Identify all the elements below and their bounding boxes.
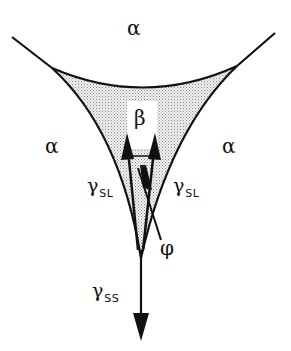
boundary-top-left — [12, 37, 52, 68]
gamma-subscript: SS — [104, 292, 119, 305]
alpha-right-label: α — [222, 136, 236, 156]
alpha-left-label: α — [45, 136, 59, 156]
gamma-subscript: SL — [99, 187, 113, 200]
gamma-symbol: γ — [87, 174, 98, 196]
gamma-sl-right-label: γSL — [173, 176, 199, 199]
triple-junction-diagram — [0, 0, 291, 351]
gamma-subscript: SL — [185, 187, 199, 200]
gamma-symbol: γ — [173, 174, 184, 196]
alpha-top-label: α — [127, 18, 141, 38]
phi-angle-label: φ — [160, 238, 174, 258]
arrowhead-down-icon — [133, 313, 149, 341]
gamma-sl-left-label: γSL — [87, 176, 113, 199]
boundary-top-right — [237, 33, 275, 66]
gamma-symbol: γ — [92, 279, 103, 301]
beta-label: β — [134, 108, 146, 128]
gamma-ss-label: γSS — [92, 281, 119, 304]
